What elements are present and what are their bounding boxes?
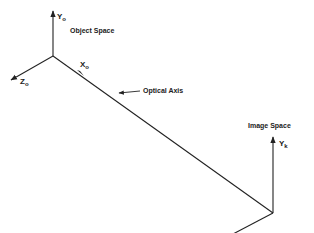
image-space-title: Image Space xyxy=(248,122,291,130)
image-space-axes: Image Space Yk xyxy=(233,122,291,233)
optical-axis-label: Optical Axis xyxy=(143,87,183,95)
object-space-title: Object Space xyxy=(70,27,114,35)
object-x-label: Xo xyxy=(80,60,89,70)
object-z-axis xyxy=(11,56,53,80)
object-y-label: Yo xyxy=(57,12,66,22)
image-y-label: Yk xyxy=(279,139,288,149)
coordinate-systems-diagram: Yo Zo Xo Object Space Optical Axis Image… xyxy=(0,0,314,233)
optical-axis-line xyxy=(53,56,273,213)
object-space-axes: Yo Zo Xo Object Space xyxy=(11,11,114,87)
object-z-label: Zo xyxy=(20,77,29,87)
image-z-axis xyxy=(233,213,273,233)
optical-axis: Optical Axis xyxy=(53,56,273,213)
optical-axis-leader xyxy=(119,91,140,93)
